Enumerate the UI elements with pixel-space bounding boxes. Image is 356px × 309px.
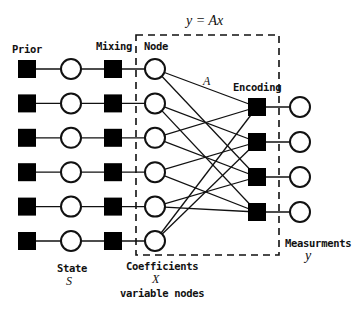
state-variable — [61, 197, 81, 217]
state-variable — [61, 162, 81, 182]
mixing-factor — [104, 94, 122, 112]
coefficients-label: Coefficients — [126, 261, 198, 272]
encoding-factor — [248, 168, 266, 186]
prior-factor — [18, 198, 36, 216]
state-variable — [61, 231, 81, 251]
prior-factor — [18, 129, 36, 147]
matrix-label: A — [203, 75, 210, 87]
prior-factor — [18, 232, 36, 250]
coefficient-node — [145, 231, 165, 251]
coefficient-node — [145, 197, 165, 217]
state-variable — [61, 128, 81, 148]
measurement-node — [290, 132, 310, 152]
coefficient-node — [145, 93, 165, 113]
prior-label: Prior — [12, 44, 42, 55]
matrix-edge — [155, 207, 257, 212]
matrix-edge — [155, 107, 257, 138]
measurement-node — [290, 97, 310, 117]
state-variable — [61, 93, 81, 113]
coefficient-node — [145, 59, 165, 79]
coefficients-symbol: X — [152, 273, 159, 285]
encoding-factor — [248, 98, 266, 116]
variable-nodes-label: variable nodes — [120, 288, 204, 299]
coefficient-node — [145, 128, 165, 148]
state-variable — [61, 59, 81, 79]
matrix-edges — [155, 69, 257, 241]
measurements-symbol: y — [305, 249, 311, 263]
encoding-label: Encoding — [233, 82, 281, 93]
node-label: Node — [144, 41, 168, 52]
prior-factor — [18, 60, 36, 78]
encoding-factor — [248, 133, 266, 151]
measurement-node — [290, 202, 310, 222]
prior-factor — [18, 94, 36, 112]
state-symbol: S — [66, 275, 72, 287]
equation-label: y = Ax — [186, 14, 223, 28]
coefficient-node — [145, 162, 165, 182]
matrix-edge — [155, 107, 257, 241]
measurement-node — [290, 167, 310, 187]
mixing-factor — [104, 232, 122, 250]
prior-factor — [18, 163, 36, 181]
mixing-label: Mixing — [96, 41, 132, 52]
mixing-factor — [104, 163, 122, 181]
mixing-factor — [104, 60, 122, 78]
measurements-label: Measurments — [285, 238, 351, 249]
encoding-factor — [248, 203, 266, 221]
state-label: State — [57, 263, 87, 274]
mixing-factor — [104, 129, 122, 147]
mixing-factor — [104, 198, 122, 216]
